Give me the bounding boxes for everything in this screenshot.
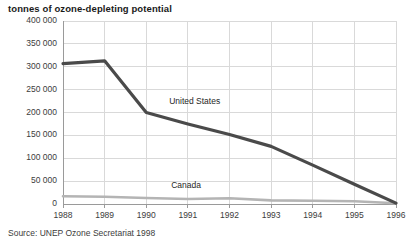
gridlines (63, 21, 396, 204)
y-axis-tick-label: 150 000 (5, 129, 57, 139)
ozone-depleting-potential-chart: tonnes of ozone-depleting potential 050 … (0, 0, 412, 245)
y-axis-tick-label: 50 000 (5, 175, 57, 185)
y-axis-tick-label: 250 000 (5, 84, 57, 94)
x-axis-tick-label: 1992 (210, 210, 250, 220)
y-axis-tick-label: 200 000 (5, 107, 57, 117)
x-axis-tick-label: 1990 (126, 210, 166, 220)
y-axis-tick-label: 350 000 (5, 38, 57, 48)
series-annotation-united-states: United States (169, 96, 220, 106)
series-annotation-canada: Canada (171, 180, 201, 190)
source-note: Source: UNEP Ozone Secretariat 1998 (8, 228, 155, 238)
x-axis-tick-label: 1993 (251, 210, 291, 220)
plot-area: 050 000100 000150 000200 000250 000300 0… (0, 0, 412, 225)
y-axis-tick-label: 300 000 (5, 61, 57, 71)
y-axis-tick-label: 0 (5, 198, 57, 208)
y-axis-tick-label: 400 000 (5, 15, 57, 25)
x-axis-tick-label: 1989 (85, 210, 125, 220)
y-axis-tick-label: 100 000 (5, 152, 57, 162)
x-axis-tick-label: 1996 (376, 210, 412, 220)
x-axis-tick-label: 1995 (334, 210, 374, 220)
x-axis-tick-label: 1988 (43, 210, 83, 220)
x-axis-tick-label: 1994 (293, 210, 333, 220)
x-axis-tick-label: 1991 (168, 210, 208, 220)
chart-canvas (0, 0, 412, 225)
